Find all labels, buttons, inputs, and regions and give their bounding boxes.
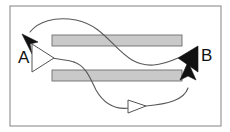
label-a: A [18,48,30,67]
diagram-canvas: A B [0,0,230,132]
diagram-root: A B [0,0,230,132]
label-b: B [201,46,212,65]
lower-bar [52,70,182,81]
upper-bar [52,35,182,46]
